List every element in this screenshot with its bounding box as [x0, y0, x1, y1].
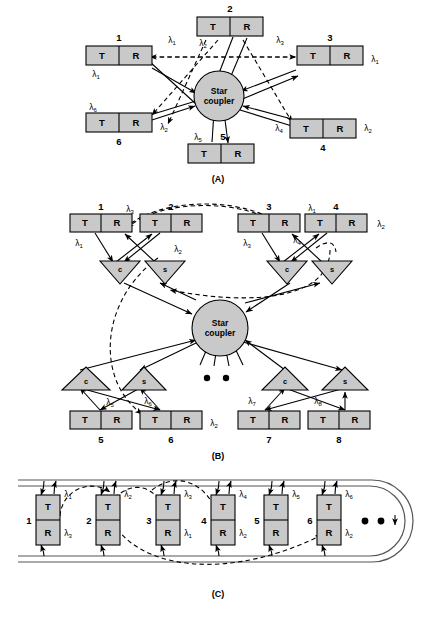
panel-c-node-5[interactable]: T R: [264, 495, 288, 545]
node-rx-label: R: [352, 414, 359, 425]
panel-b-node-5[interactable]: T R: [70, 411, 132, 429]
panel-b-node-3[interactable]: T R: [238, 214, 300, 232]
node-rx-label: R: [165, 527, 172, 538]
node-tx-label: T: [273, 501, 279, 512]
panel-b-ellipsis-dot: [223, 375, 229, 381]
node-tx-label: T: [82, 414, 88, 425]
splitter-label: s: [142, 377, 146, 386]
panel-c-node-4[interactable]: T R: [211, 495, 235, 545]
combiner-label: c: [285, 265, 289, 274]
panel-b-node-4[interactable]: T R: [305, 214, 367, 232]
panel-c-node-number-5: 5: [254, 515, 260, 526]
splitter-label: s: [163, 265, 167, 274]
node-tx-label: T: [105, 501, 111, 512]
panel-b-node-number-5: 5: [98, 434, 104, 445]
panel-b-ellipsis-dot: [204, 375, 210, 381]
node-tx-label: T: [152, 217, 158, 228]
panel-c-node-number-2: 2: [86, 515, 91, 526]
node-tx-label: T: [250, 217, 256, 228]
node-tx-label: T: [152, 414, 158, 425]
panel-a-node-number-3: 3: [327, 32, 332, 43]
node-rx-label: R: [235, 148, 242, 159]
panel-a-caption: (A): [212, 174, 225, 184]
panel-b-node-6[interactable]: T R: [140, 411, 202, 429]
node-tx-label: T: [320, 414, 326, 425]
panel-c-node-1[interactable]: T R: [36, 495, 60, 545]
node-rx-label: R: [133, 50, 140, 61]
panel-a-node-1[interactable]: T R: [86, 46, 152, 65]
node-tx-label: T: [303, 123, 309, 134]
panel-a-node-number-2: 2: [227, 3, 232, 14]
combiner-label: c: [118, 265, 122, 274]
node-rx-label: R: [184, 414, 191, 425]
node-tx-label: T: [220, 501, 226, 512]
panel-a-node-number-5: 5: [220, 131, 226, 142]
figure-network-topologies: T R 1 λ1 λ1 T R 2 λ2 T R 3 λ3 λ1 T R: [0, 0, 436, 621]
panel-b-node-number-1: 1: [98, 201, 104, 212]
panel-c-node-number-1: 1: [26, 515, 32, 526]
node-tx-label: T: [210, 21, 216, 32]
panel-a-node-3[interactable]: T R: [297, 46, 363, 65]
coupler-line1: Star: [212, 318, 229, 328]
panel-b-node-number-8: 8: [336, 434, 341, 445]
panel-c-node-number-3: 3: [146, 515, 151, 526]
panel-c-node-6[interactable]: T R: [317, 495, 341, 545]
node-rx-label: R: [105, 527, 112, 538]
panel-b-caption: (B): [212, 451, 225, 461]
node-tx-label: T: [201, 148, 207, 159]
node-rx-label: R: [133, 117, 140, 128]
panel-b-star-coupler[interactable]: Star coupler: [192, 300, 248, 356]
panel-a-node-4[interactable]: T R: [290, 119, 356, 138]
node-tx-label: T: [99, 117, 105, 128]
panel-b-node-number-6: 6: [168, 434, 173, 445]
node-rx-label: R: [184, 217, 191, 228]
node-rx-label: R: [282, 217, 289, 228]
panel-a-node-number-4: 4: [320, 142, 326, 153]
coupler-line1: Star: [211, 86, 228, 96]
node-tx-label: T: [250, 414, 256, 425]
node-rx-label: R: [45, 527, 52, 538]
combiner-label: c: [283, 377, 287, 386]
splitter-label: s: [343, 377, 347, 386]
node-rx-label: R: [344, 50, 351, 61]
panel-c-ellipsis-dot: [378, 518, 385, 525]
node-rx-label: R: [337, 123, 344, 134]
node-rx-label: R: [282, 414, 289, 425]
panel-b-node-2[interactable]: T R: [140, 214, 202, 232]
panel-b-node-1[interactable]: T R: [70, 214, 132, 232]
panel-a-node-5[interactable]: T R: [188, 144, 254, 163]
panel-c-caption: (C): [212, 589, 225, 599]
panel-c-node-3[interactable]: T R: [156, 495, 180, 545]
node-rx-label: R: [220, 527, 227, 538]
node-tx-label: T: [45, 501, 51, 512]
panel-a-node-2[interactable]: T R: [197, 17, 263, 36]
panel-b-node-7[interactable]: T R: [238, 411, 300, 429]
node-tx-label: T: [317, 217, 323, 228]
panel-b-node-number-7: 7: [266, 434, 271, 445]
node-rx-label: R: [349, 217, 356, 228]
panel-a-node-number-6: 6: [116, 136, 121, 147]
node-tx-label: T: [82, 217, 88, 228]
node-rx-label: R: [273, 527, 280, 538]
coupler-line2: coupler: [204, 96, 235, 106]
node-tx-label: T: [99, 50, 105, 61]
panel-a-node-number-1: 1: [116, 32, 122, 43]
splitter-label: s: [330, 265, 334, 274]
node-rx-label: R: [114, 217, 121, 228]
node-rx-label: R: [326, 527, 333, 538]
panel-c-node-2[interactable]: T R: [96, 495, 120, 545]
panel-c-node-number-6: 6: [307, 515, 312, 526]
panel-c-ellipsis-dot: [362, 518, 369, 525]
panel-b-node-number-4: 4: [333, 201, 339, 212]
node-rx-label: R: [114, 414, 121, 425]
node-tx-label: T: [165, 501, 171, 512]
panel-b-node-8[interactable]: T R: [308, 411, 370, 429]
panel-b-node-number-3: 3: [266, 201, 271, 212]
node-tx-label: T: [326, 501, 332, 512]
panel-a-node-6[interactable]: T R: [86, 113, 152, 132]
node-rx-label: R: [244, 21, 251, 32]
panel-a-star-coupler[interactable]: Star coupler: [194, 71, 244, 121]
panel-b-node-number-2: 2: [168, 201, 173, 212]
panel-c-node-number-4: 4: [201, 515, 207, 526]
node-tx-label: T: [310, 50, 316, 61]
